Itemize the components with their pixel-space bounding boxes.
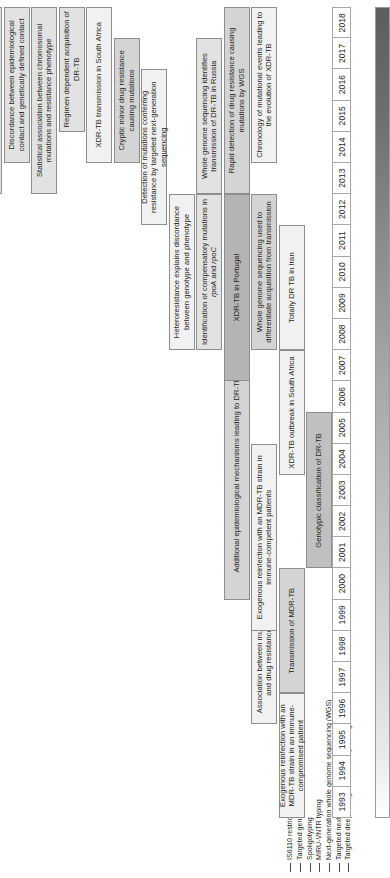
event-label: Discordance between epidemiological cont… [7, 11, 26, 159]
legend-item-label: MIRU-VNTR typing [315, 799, 323, 860]
legend-item: IS6110 restriction fragment length polym… [286, 818, 294, 872]
year-tick: 2004 [332, 444, 351, 475]
event-box: Online next-generation sequencing analys… [0, 7, 2, 194]
event-label: Identification of compensatory mutations… [200, 198, 219, 346]
event-label: Chronology of mutational events leading … [255, 11, 274, 159]
year-tick: 2011 [332, 225, 351, 256]
year-tick: 2007 [332, 350, 351, 381]
legend-dash-icon [329, 863, 330, 872]
event-box: Additional epidemiological mechanisms le… [224, 350, 250, 600]
event-box: Totally DR TB in Iran [279, 225, 305, 350]
year-tick: 2002 [332, 506, 351, 537]
event-label: Rapid detection of drug resistance causi… [227, 11, 246, 190]
legend-dash-icon [319, 863, 320, 872]
event-label: XDR-TB in Portugal [232, 254, 241, 322]
year-tick: 2017 [332, 38, 351, 69]
event-box: Cryptic minor drug resistance causing mu… [114, 38, 140, 163]
event-box: Detection of mutations conferring resist… [141, 69, 167, 225]
legend-item: Next-generation whole genome sequencing … [325, 818, 333, 872]
legend-item: Targeted next-generation sequencing [335, 818, 343, 872]
year-tick: 1994 [332, 756, 351, 787]
year-tick: 2006 [332, 381, 351, 412]
event-box: Exogenous reinfection with an MDR-TB str… [279, 693, 305, 818]
year-tick: 2012 [332, 194, 351, 225]
event-box: XDR-TB outbreak in South Africa [279, 350, 305, 475]
event-label: Whole genome sequencing identifies trans… [200, 42, 219, 190]
year-tick: 2008 [332, 319, 351, 350]
year-tick: 2018 [332, 7, 351, 38]
event-label: Statistical association between chromoso… [35, 11, 54, 190]
year-tick: 1993 [332, 787, 351, 818]
year-tick: 1996 [332, 693, 351, 724]
year-tick: 1995 [332, 724, 351, 755]
event-box: Heteroresistance explains discordance be… [169, 194, 195, 350]
event-label: Regimen dependent acquisition of DR-TB [62, 11, 81, 128]
year-tick: 2009 [332, 288, 351, 319]
year-gradient-bar [375, 7, 390, 818]
year-tick: 2000 [332, 569, 351, 600]
year-tick: 2001 [332, 537, 351, 568]
event-box: XDR-TB in Portugal [224, 194, 250, 381]
year-tick: 1999 [332, 600, 351, 631]
event-box: XDR-TB transmission in South Africa [86, 7, 112, 163]
legend-item: Targeted gene sequencing [296, 818, 304, 872]
figure-stage: IS6110 restriction fragment length polym… [0, 0, 390, 878]
legend-item: Spoligotyping [306, 818, 314, 872]
event-box: Whole genome sequencing identifies trans… [196, 38, 222, 194]
event-box: Statistical association between chromoso… [31, 7, 57, 194]
event-label: Detection of mutations conferring resist… [140, 73, 168, 221]
event-label: XDR-TB outbreak in South Africa [287, 356, 296, 469]
year-tick: 1998 [332, 631, 351, 662]
event-box: Discordance between epidemiological cont… [4, 7, 30, 163]
event-label: Exogenous reinfection with an MDR-TB str… [278, 697, 306, 814]
event-box: Regimen dependent acquisition of DR-TB [59, 7, 85, 132]
event-label: Whole genome sequencing used to differen… [255, 198, 274, 346]
event-label: Transmission of MDR-TB [287, 588, 296, 674]
event-label: XDR-TB transmission in South Africa [94, 22, 103, 148]
event-box: Whole genome sequencing used to differen… [251, 194, 277, 350]
event-box: Rapid detection of drug resistance causi… [224, 7, 250, 194]
event-label: Genotypic classification of DR-TB [314, 433, 323, 548]
year-tick: 2003 [332, 475, 351, 506]
legend-dash-icon [300, 863, 301, 872]
event-label: Exogenous reinfection with an MDR-TB str… [255, 448, 274, 627]
legend-dash-icon [339, 863, 340, 872]
year-tick: 2014 [332, 132, 351, 163]
legend: IS6110 restriction fragment length polym… [286, 818, 354, 872]
year-axis: 1993199419951996199719981999200020012002… [332, 7, 372, 818]
legend-item: Targeted deep next-generation sequencing [344, 818, 352, 872]
legend-dash-icon [348, 863, 349, 872]
event-box: Chronology of mutational events leading … [251, 7, 277, 163]
year-tick: 2005 [332, 413, 351, 444]
event-label: Totally DR TB in Iran [287, 252, 296, 323]
year-tick: 2015 [332, 101, 351, 132]
legend-item-label: Spoligotyping [306, 817, 314, 860]
timeline-figure: IS6110 restriction fragment length polym… [0, 0, 390, 878]
year-tick: 2010 [332, 257, 351, 288]
year-tick: 1997 [332, 662, 351, 693]
legend-dash-icon [290, 863, 291, 872]
event-box: Exogenous reinfection with an MDR-TB str… [251, 444, 277, 631]
legend-item: MIRU-VNTR typing [315, 818, 323, 872]
event-box: Identification of compensatory mutations… [196, 194, 222, 350]
year-tick: 2016 [332, 70, 351, 101]
event-label: Heteroresistance explains discordance be… [172, 198, 191, 346]
legend-dash-icon [310, 863, 311, 872]
event-box: Genotypic classification of DR-TB [306, 412, 332, 568]
event-box: Transmission of MDR-TB [279, 568, 305, 693]
event-label: Additional epidemiological mechanisms le… [232, 377, 241, 573]
event-label: Cryptic minor drug resistance causing mu… [117, 42, 136, 159]
year-tick: 2013 [332, 163, 351, 194]
